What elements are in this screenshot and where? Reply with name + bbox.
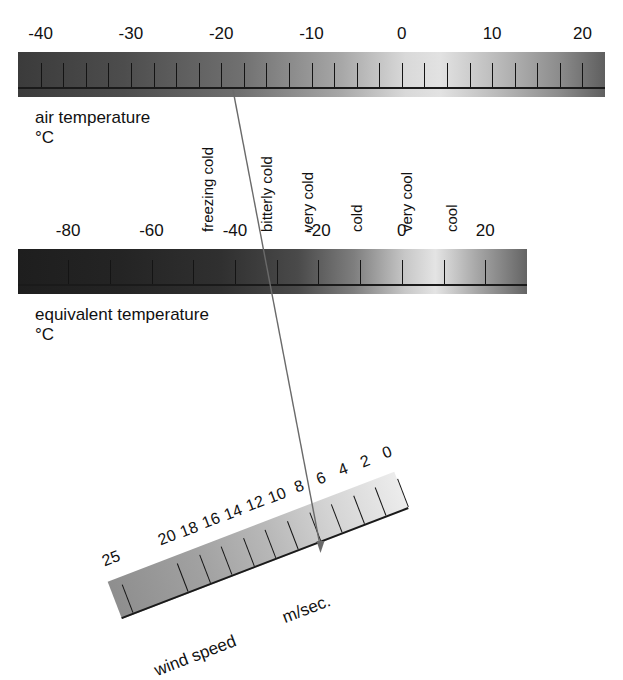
wind-speed-tick-label: 10 — [266, 485, 288, 506]
wind-speed-tick-label: 25 — [100, 548, 122, 569]
wind-speed-tick-label: 20 — [155, 527, 177, 548]
wind-speed-tick-label: 18 — [178, 518, 200, 539]
wind-speed-caption: wind speed — [152, 632, 238, 679]
wind-speed-tick-label: 2 — [358, 452, 372, 470]
wind-speed-tick-label: 16 — [200, 510, 222, 531]
wind-speed-tick-label: 6 — [314, 469, 328, 487]
wind-speed-tick-label: 14 — [222, 502, 244, 523]
wind-speed-unit-label: m/sec. — [280, 592, 333, 626]
wind-speed-tick-label: 8 — [292, 478, 306, 496]
wind-speed-tick-label: 12 — [244, 493, 266, 514]
wind-speed-tick-label: 0 — [380, 444, 394, 462]
wind-speed-tick-label: 4 — [336, 461, 350, 479]
